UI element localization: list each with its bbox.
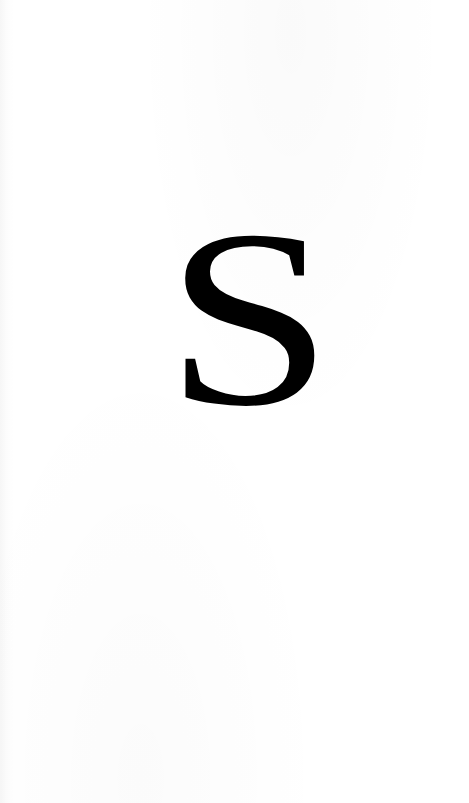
scanned-page: S [0, 0, 469, 803]
dropcap-letter: S [165, 178, 333, 458]
dropcap-svg: S [165, 178, 333, 458]
dropcap-glyph-text: S [165, 178, 333, 458]
scan-edge-shadow [0, 0, 14, 803]
